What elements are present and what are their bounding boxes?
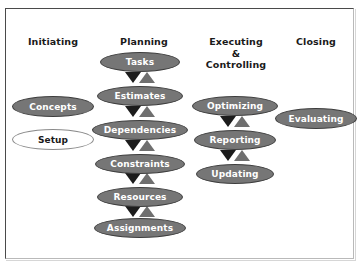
process-node-resources[interactable]: Resources (97, 187, 183, 207)
process-node-concepts[interactable]: Concepts (12, 96, 94, 117)
flow-arrow-pair (220, 116, 250, 127)
process-node-setup[interactable]: Setup (12, 129, 94, 150)
arrow-up-icon (234, 150, 250, 161)
process-node-tasks[interactable]: Tasks (100, 52, 180, 72)
process-flow-diagram: InitiatingConceptsSetupPlanningTasksEsti… (0, 0, 362, 269)
column-header-initiating: Initiating (22, 36, 84, 48)
process-node-estimates[interactable]: Estimates (97, 86, 183, 106)
arrow-up-icon (139, 206, 155, 217)
arrow-up-icon (234, 116, 250, 127)
flow-arrow-pair (125, 206, 155, 217)
column-header-executing-controlling: Executing & Controlling (199, 36, 273, 71)
flow-arrow-pair (125, 106, 155, 117)
flow-arrow-pair (125, 140, 155, 151)
arrow-up-icon (139, 106, 155, 117)
arrow-up-icon (139, 72, 155, 83)
process-node-updating[interactable]: Updating (196, 164, 274, 184)
flow-arrow-pair (125, 173, 155, 184)
process-node-reporting[interactable]: Reporting (194, 130, 276, 150)
column-header-closing: Closing (288, 36, 344, 48)
arrow-up-icon (139, 173, 155, 184)
column-header-planning: Planning (113, 36, 175, 48)
process-node-dependencies[interactable]: Dependencies (92, 120, 188, 140)
arrow-up-icon (139, 140, 155, 151)
process-node-optimizing[interactable]: Optimizing (192, 96, 278, 116)
process-node-constraints[interactable]: Constraints (95, 154, 185, 174)
process-node-assignments[interactable]: Assignments (94, 218, 186, 238)
process-node-evaluating[interactable]: Evaluating (275, 108, 357, 129)
flow-arrow-pair (125, 72, 155, 83)
flow-arrow-pair (220, 150, 250, 161)
